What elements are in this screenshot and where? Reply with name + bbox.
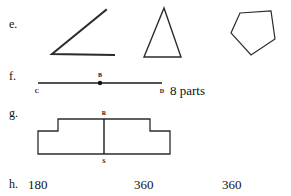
point-b-label: B <box>98 72 102 78</box>
stepped-polygon-figure: R S <box>34 106 174 166</box>
parts-answer-text: 8 parts <box>170 84 205 97</box>
point-c-label: C <box>35 88 39 94</box>
row-label-e: e. <box>9 18 17 30</box>
answer-value-1: 180 <box>28 178 48 191</box>
angle-rays <box>52 10 114 55</box>
pentagon-figure <box>228 5 278 61</box>
worksheet-page: e. f. B C D 8 parts g. R S h. 180 360 36… <box>0 0 291 196</box>
triangle-figure <box>140 5 186 61</box>
answer-value-2: 360 <box>134 178 154 191</box>
pentagon-outline <box>231 11 275 55</box>
line-segment-figure: B C D <box>32 68 172 100</box>
angle-figure <box>48 8 116 60</box>
row-label-h: h. <box>9 178 18 190</box>
point-r-label: R <box>102 110 107 116</box>
triangle-outline <box>144 8 181 57</box>
row-label-g: g. <box>9 107 18 119</box>
point-b-dot <box>98 81 102 85</box>
point-d-label: D <box>160 88 165 94</box>
answer-value-3: 360 <box>222 178 242 191</box>
row-label-f: f. <box>9 70 16 82</box>
point-s-label: S <box>102 158 106 164</box>
